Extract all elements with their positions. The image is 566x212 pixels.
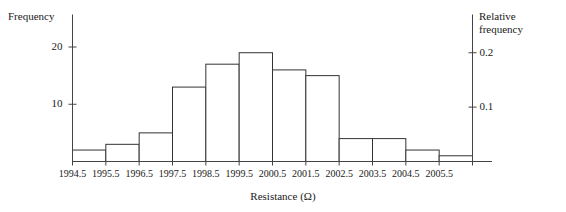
bars-group xyxy=(73,53,473,162)
histogram-bar xyxy=(173,87,206,161)
x-tick-label: 2005.5 xyxy=(417,168,461,179)
histogram-figure: Frequency Relative frequency Resistance … xyxy=(0,0,566,212)
y-tick-label-right: 0.2 xyxy=(480,46,516,58)
histogram-bar xyxy=(406,150,439,161)
histogram-bar xyxy=(439,156,472,162)
y-tick-label-left: 20 xyxy=(27,40,63,52)
histogram-bar xyxy=(273,70,306,162)
y-tick-label-right: 0.1 xyxy=(480,100,516,112)
histogram-bar xyxy=(373,139,406,162)
histogram-bar xyxy=(306,76,339,162)
histogram-bar xyxy=(206,64,239,161)
histogram-bar xyxy=(73,150,106,161)
histogram-bar xyxy=(139,133,172,162)
histogram-bar xyxy=(339,139,372,162)
y-tick-label-left: 10 xyxy=(27,97,63,109)
histogram-bar xyxy=(106,144,139,161)
histogram-bar xyxy=(239,53,272,162)
